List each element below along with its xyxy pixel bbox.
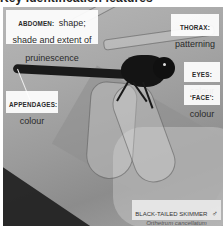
label-appendages-title: APPENDAGES: — [9, 101, 57, 108]
label-abdomen-text2: shade and extent of — [12, 35, 91, 45]
label-face-title: ‘FACE’: — [190, 94, 214, 101]
species-caption: BLACK-TAILED SKIMMER ♂ Orthetrum cancell… — [132, 200, 221, 220]
label-thorax-text: patterning — [175, 39, 215, 49]
dragonfly-head — [153, 57, 175, 79]
eye-highlight — [163, 63, 166, 66]
dragonfly-abdomen — [13, 64, 128, 79]
label-abdomen: ABDOMEN: shape; shade and extent of prui… — [6, 10, 98, 44]
male-symbol-icon: ♂ — [212, 209, 218, 218]
label-abdomen-text3: pruinescence — [25, 53, 79, 63]
label-abdomen-text1: shape; — [59, 18, 86, 28]
label-abdomen-title: ABDOMEN: — [18, 20, 54, 27]
figure-title: Key identification features — [0, 0, 153, 5]
label-thorax: THORAX: patterning — [171, 14, 219, 36]
label-face-text: colour — [190, 109, 215, 119]
figure-header: Key identification features — [0, 0, 223, 7]
label-face: ‘FACE’: colour — [184, 85, 220, 105]
label-eyes-title: EYES: — [192, 71, 212, 78]
label-thorax-title: THORAX: — [180, 24, 210, 31]
species-common-name: BLACK-TAILED SKIMMER — [135, 211, 207, 217]
species-latin-name: Orthetrum cancellatum — [135, 220, 218, 226]
label-appendages-text: colour — [20, 116, 45, 126]
label-eyes: EYES: colour — [184, 62, 220, 82]
label-appendages: APPENDAGES: colour — [6, 91, 58, 113]
